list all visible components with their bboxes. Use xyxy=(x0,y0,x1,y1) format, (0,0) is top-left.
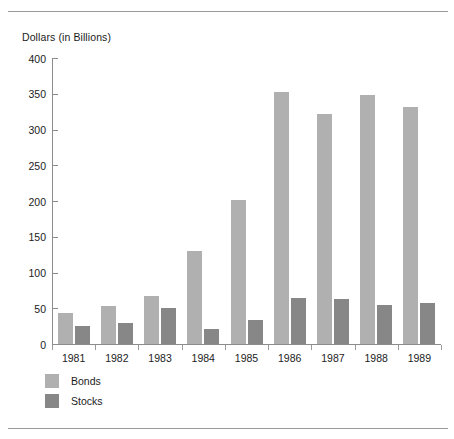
bar-stocks-1981 xyxy=(75,326,90,344)
y-tick-label: 150 xyxy=(28,231,46,243)
legend-label: Stocks xyxy=(71,395,103,407)
legend-item-bonds: Bonds xyxy=(45,371,103,391)
bar-bonds-1983 xyxy=(144,296,159,344)
y-tick-label: 0 xyxy=(40,339,46,351)
bar-group-1986 xyxy=(274,58,306,344)
bar-stocks-1982 xyxy=(118,323,133,344)
x-axis-label-1987: 1987 xyxy=(311,352,354,364)
chart-legend: BondsStocks xyxy=(45,371,103,411)
bar-chart: Dollars (in Billions) 050100150200250300… xyxy=(0,0,454,439)
x-tick-1988 xyxy=(355,345,356,350)
y-axis-title: Dollars (in Billions) xyxy=(22,31,111,43)
bar-group-1981 xyxy=(58,58,90,344)
bar-stocks-1983 xyxy=(161,308,176,344)
bar-group-1983 xyxy=(144,58,176,344)
y-tick-label: 250 xyxy=(28,160,46,172)
x-axis-label-1983: 1983 xyxy=(138,352,181,364)
bar-group-1987 xyxy=(317,58,349,344)
x-tick-1982 xyxy=(95,345,96,350)
bar-bonds-1986 xyxy=(274,92,289,344)
bar-bonds-1981 xyxy=(58,313,73,344)
x-tick-1983 xyxy=(138,345,139,350)
y-tick-label: 350 xyxy=(28,88,46,100)
y-tick-label: 300 xyxy=(28,124,46,136)
x-axis-line xyxy=(52,344,441,345)
bar-bonds-1988 xyxy=(360,95,375,344)
bar-group-1984 xyxy=(187,58,219,344)
bar-group-1989 xyxy=(403,58,435,344)
x-axis-label-1989: 1989 xyxy=(398,352,441,364)
bar-bonds-1982 xyxy=(101,306,116,344)
x-tick-end xyxy=(441,345,442,350)
y-tick-label: 400 xyxy=(28,53,46,65)
x-axis-label-1982: 1982 xyxy=(95,352,138,364)
bar-stocks-1986 xyxy=(291,298,306,344)
y-tick-label: 200 xyxy=(28,196,46,208)
y-tick-label: 100 xyxy=(28,267,46,279)
x-axis-label-1984: 1984 xyxy=(182,352,225,364)
x-axis-label-1985: 1985 xyxy=(225,352,268,364)
legend-label: Bonds xyxy=(71,375,101,387)
x-tick-1985 xyxy=(225,345,226,350)
bar-bonds-1987 xyxy=(317,114,332,344)
x-tick-1986 xyxy=(268,345,269,350)
y-tick-label: 50 xyxy=(34,303,46,315)
x-axis-label-1986: 1986 xyxy=(268,352,311,364)
chart-page: Dollars (in Billions) 050100150200250300… xyxy=(0,0,454,439)
x-tick-1981 xyxy=(52,345,53,350)
bar-stocks-1985 xyxy=(248,320,263,344)
bar-group-1988 xyxy=(360,58,392,344)
bar-bonds-1989 xyxy=(403,107,418,344)
legend-swatch-bonds xyxy=(45,374,59,388)
bar-group-1985 xyxy=(231,58,263,344)
bar-stocks-1987 xyxy=(334,299,349,344)
x-tick-1987 xyxy=(311,345,312,350)
bar-bonds-1985 xyxy=(231,200,246,344)
bar-stocks-1988 xyxy=(377,305,392,344)
bar-bonds-1984 xyxy=(187,251,202,344)
legend-item-stocks: Stocks xyxy=(45,391,103,411)
bar-stocks-1989 xyxy=(420,303,435,344)
legend-swatch-stocks xyxy=(45,394,59,408)
x-tick-1984 xyxy=(182,345,183,350)
plot-area xyxy=(52,58,441,344)
bar-group-1982 xyxy=(101,58,133,344)
x-axis-label-1988: 1988 xyxy=(355,352,398,364)
bar-stocks-1984 xyxy=(204,329,219,344)
x-tick-1989 xyxy=(398,345,399,350)
x-axis-label-1981: 1981 xyxy=(52,352,95,364)
